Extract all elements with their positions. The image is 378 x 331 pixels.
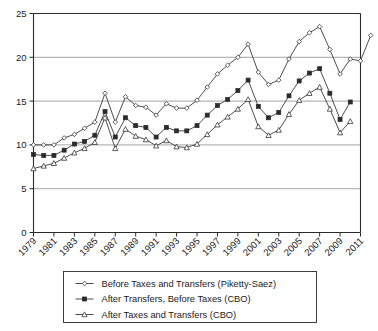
x-tick-label-2003: 2003 [261,235,284,258]
data-point-0-4 [72,132,77,137]
data-point-2-21 [245,97,250,102]
legend-marker-square-icon [83,297,87,301]
y-tick-label-10: 10 [16,139,27,150]
data-point-0-8 [113,120,118,125]
data-point-0-5 [82,126,87,131]
data-point-1-8 [113,135,117,139]
data-series-group [31,24,373,170]
data-point-0-7 [103,91,108,96]
data-point-1-15 [185,129,189,133]
data-point-0-29 [328,47,333,52]
data-point-1-18 [215,103,219,107]
x-tick-label-2007: 2007 [302,235,325,258]
legend-label-1: After Transfers, Before Taxes (CBO) [102,294,251,304]
series-1 [32,67,353,158]
x-tick-label-1981: 1981 [36,235,59,258]
data-point-1-21 [246,78,250,82]
data-point-1-16 [195,124,199,128]
x-tick-label-1983: 1983 [57,235,80,258]
y-axis-tick-labels: 0510152025 [16,8,27,238]
data-point-1-22 [256,104,260,108]
legend-item-1[interactable]: After Transfers, Before Taxes (CBO) [76,294,251,304]
x-tick-label-2001: 2001 [240,235,263,258]
x-tick-label-1995: 1995 [179,235,202,258]
series-2 [31,84,353,170]
x-tick-label-1979: 1979 [16,235,39,258]
legend-item-0[interactable]: Before Taxes and Transfers (Piketty-Saez… [76,279,276,289]
data-point-1-6 [93,133,97,137]
x-axis-ticks [34,233,361,237]
data-point-2-12 [154,143,159,148]
line-chart: 0510152025 19791981198319851987198919911… [0,0,378,331]
data-point-0-24 [276,78,281,83]
x-tick-label-1999: 1999 [220,235,243,258]
data-point-0-6 [93,120,98,125]
y-tick-label-25: 25 [16,8,27,19]
data-point-2-27 [307,91,312,96]
y-tick-label-5: 5 [21,183,26,194]
data-point-0-0 [31,143,36,148]
data-point-1-27 [307,71,311,75]
x-tick-label-1991: 1991 [138,235,161,258]
data-point-1-3 [62,148,66,152]
x-tick-label-2009: 2009 [322,235,345,258]
x-axis-tick-labels: 1979198119831985198719891991199319951997… [16,235,366,258]
x-tick-label-1993: 1993 [159,235,182,258]
data-point-1-10 [134,124,138,128]
data-point-1-25 [287,94,291,98]
data-point-1-19 [226,97,230,101]
data-point-1-7 [103,110,107,114]
data-point-2-26 [297,98,302,103]
chart-container: 0510152025 19791981198319851987198919911… [0,0,378,331]
data-point-0-28 [317,24,322,29]
data-point-0-1 [41,143,46,148]
data-point-1-5 [83,139,87,143]
chart-legend: Before Taxes and Transfers (Piketty-Saez… [64,272,317,323]
data-point-2-6 [92,140,97,145]
data-point-2-9 [123,127,128,132]
data-point-2-3 [62,155,67,160]
data-point-1-9 [123,116,127,120]
x-tick-label-1985: 1985 [77,235,100,258]
data-point-0-32 [358,59,363,64]
data-point-1-23 [267,116,271,120]
data-point-2-29 [327,106,332,111]
axis-lines [34,14,361,233]
series-line-1 [34,69,351,156]
data-point-1-28 [318,67,322,71]
data-point-2-31 [348,119,353,124]
data-point-1-30 [338,117,342,121]
data-point-1-12 [154,135,158,139]
data-point-1-11 [144,125,148,129]
data-point-2-22 [256,124,261,129]
x-tick-label-2005: 2005 [281,235,304,258]
data-point-1-20 [236,89,240,93]
data-point-2-8 [113,146,118,151]
series-0 [31,24,373,147]
y-axis-ticks [30,14,34,233]
data-point-2-24 [276,127,281,132]
data-point-0-14 [174,106,179,111]
data-point-2-28 [317,84,322,89]
data-point-1-2 [52,153,56,157]
y-tick-label-15: 15 [16,96,27,107]
data-point-1-29 [328,91,332,95]
data-point-2-2 [51,161,56,166]
x-tick-label-1987: 1987 [97,235,120,258]
x-tick-label-2011: 2011 [343,235,365,257]
y-tick-label-0: 0 [21,227,26,238]
x-tick-label-1989: 1989 [118,235,141,258]
data-point-1-4 [72,142,76,146]
legend-label-2: After Taxes and Transfers (CBO) [102,310,237,320]
data-point-2-4 [72,150,77,155]
legend-label-0: Before Taxes and Transfers (Piketty-Saez… [102,279,276,289]
data-point-1-14 [175,129,179,133]
data-point-1-13 [164,125,168,129]
data-point-1-24 [277,110,281,114]
data-point-2-10 [133,134,138,139]
data-point-1-26 [297,79,301,83]
data-point-2-13 [164,138,169,143]
data-point-1-17 [205,113,209,117]
y-tick-label-20: 20 [16,52,27,63]
data-point-0-33 [368,33,373,38]
